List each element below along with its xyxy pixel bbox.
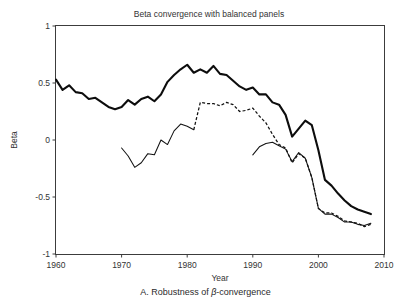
caption-prefix: A. Robustness of xyxy=(140,287,211,297)
chart-background xyxy=(0,0,411,301)
y-tick-label: -0.5 xyxy=(35,192,50,202)
caption-suffix: -convergence xyxy=(216,287,271,297)
y-tick-label: 1 xyxy=(45,21,50,31)
y-tick-label: -1 xyxy=(42,249,50,259)
y-tick-label: 0 xyxy=(45,135,50,145)
beta-convergence-chart: Beta convergence with balanced panels -1… xyxy=(0,0,411,301)
x-tick-label: 2000 xyxy=(309,260,328,270)
x-tick-label: 1960 xyxy=(47,260,66,270)
chart-title: Beta convergence with balanced panels xyxy=(134,9,284,19)
x-tick-label: 2010 xyxy=(375,260,394,270)
x-tick-label: 1970 xyxy=(112,260,131,270)
x-tick-label: 1990 xyxy=(243,260,262,270)
y-tick-label: 0.5 xyxy=(38,78,50,88)
x-tick-label: 1980 xyxy=(178,260,197,270)
figure-container: Beta convergence with balanced panels -1… xyxy=(0,0,411,301)
figure-caption: A. Robustness of β-convergence xyxy=(140,287,271,297)
y-axis-title: Beta xyxy=(9,131,19,149)
